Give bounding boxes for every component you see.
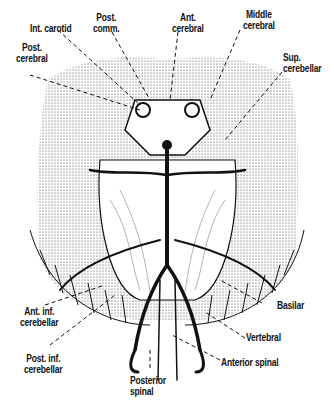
label-post-comm: Post. comm.	[93, 12, 120, 34]
label-sup-cerebellar: Sup. cerebellar	[283, 52, 321, 74]
label-middle-cerebral-line2: cerebral	[243, 20, 275, 31]
label-middle-cerebral: Middle cerebral	[243, 9, 275, 31]
label-ant-cerebral-line1: Ant.	[172, 12, 204, 23]
label-posterior-spinal: Posterior spinal	[130, 375, 166, 397]
label-posterior-spinal-line1: Posterior	[130, 375, 166, 386]
label-anterior-spinal: Anterior spinal	[221, 357, 278, 368]
label-post-cerebral-line1: Post.	[16, 42, 48, 53]
label-post-comm-line2: comm.	[93, 23, 120, 34]
label-post-cerebral: Post. cerebral	[16, 42, 48, 64]
label-ant-inf-cerebellar-line1: Ant. inf.	[20, 306, 58, 317]
label-ant-inf-cerebellar: Ant. inf. cerebellar	[20, 306, 58, 328]
label-int-carotid: Int. carotid	[30, 23, 71, 34]
label-sup-cerebellar-line2: cerebellar	[283, 63, 321, 74]
label-post-comm-line1: Post.	[93, 12, 120, 23]
label-ant-cerebral: Ant. cerebral	[172, 12, 204, 34]
label-posterior-spinal-line2: spinal	[130, 386, 166, 397]
label-middle-cerebral-line1: Middle	[243, 9, 275, 20]
label-basilar: Basilar	[277, 300, 304, 311]
label-ant-cerebral-line2: cerebral	[172, 23, 204, 34]
label-post-inf-cerebellar: Post. inf. cerebellar	[24, 353, 62, 375]
label-post-cerebral-line2: cerebral	[16, 53, 48, 64]
label-post-inf-cerebellar-line2: cerebellar	[24, 364, 62, 375]
label-ant-inf-cerebellar-line2: cerebellar	[20, 317, 58, 328]
label-post-inf-cerebellar-line1: Post. inf.	[24, 353, 62, 364]
label-vertebral: Vertebral	[246, 332, 281, 343]
label-sup-cerebellar-line1: Sup.	[283, 52, 321, 63]
